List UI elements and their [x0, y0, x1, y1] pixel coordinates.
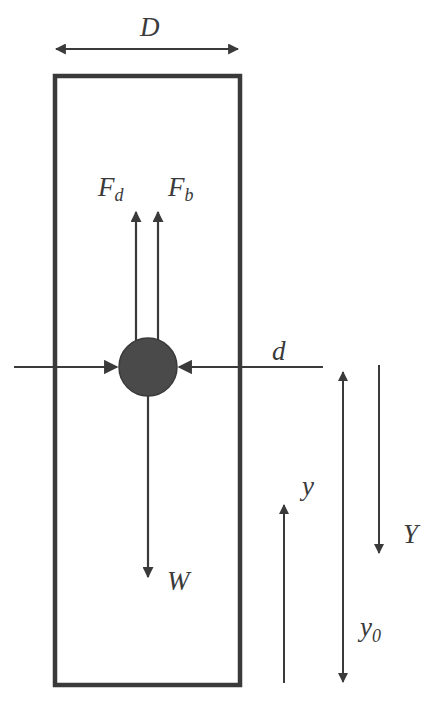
label-Y: Y: [403, 519, 421, 549]
buoyancy-force-arrow: Fb: [158, 172, 194, 342]
label-D: D: [139, 12, 160, 42]
settling-column-diagram: D d Fd Fb W y y0: [0, 0, 425, 702]
particle-circle: [119, 338, 177, 396]
drag-force-arrow: Fd: [97, 172, 136, 342]
label-Fb: Fb: [167, 172, 194, 205]
height-coordinate-arrow: y: [284, 471, 314, 683]
label-y: y: [299, 471, 314, 501]
column-diameter-dimension: D: [56, 12, 238, 49]
weight-arrow: W: [148, 392, 192, 596]
depth-coordinate-arrow: Y: [379, 365, 421, 553]
label-Fd: Fd: [97, 172, 125, 205]
label-y0: y0: [357, 612, 381, 646]
initial-height-dimension: y0: [343, 372, 381, 682]
label-W: W: [167, 566, 192, 596]
label-d: d: [272, 336, 286, 366]
